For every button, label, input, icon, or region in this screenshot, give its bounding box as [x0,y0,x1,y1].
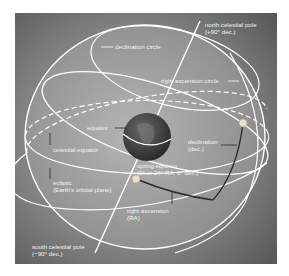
label-spring-equinox: spring equinox [137,162,178,169]
diagram-canvas: north celestial pole (+90° dec.) declina… [15,13,277,264]
label-ecliptic-desc: (Earth's orbital plane) [53,186,112,193]
label-north-pole: north celestial pole [205,21,257,28]
label-declination: declination [188,138,218,145]
label-south-pole-dec: (−90° dec.) [32,250,63,257]
celestial-sphere-diagram: north celestial pole (+90° dec.) declina… [15,13,277,264]
label-right-ascension: right ascension [127,207,169,214]
label-celestial-equator: celestial equator [53,146,98,153]
label-declination-abbrev: (dec.) [188,145,204,152]
label-equator: equator [87,124,108,131]
label-ecliptic: ecliptic [53,179,72,186]
label-spring-equinox-coords: (0° or 24° RA, 0° dec.) [137,169,198,176]
label-declination-circle: declination circle [115,43,161,50]
label-ra-circle: right ascension circle [161,77,219,84]
label-north-pole-dec: (+90° dec.) [205,28,236,35]
label-south-pole: south celestial pole [32,243,85,250]
star-marker [239,119,247,127]
label-right-ascension-abbrev: (RA) [127,214,140,221]
spring-equinox-marker [132,175,140,183]
